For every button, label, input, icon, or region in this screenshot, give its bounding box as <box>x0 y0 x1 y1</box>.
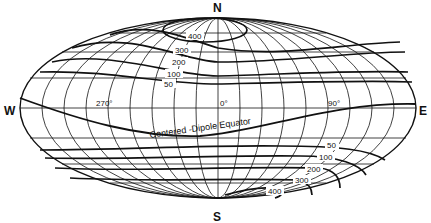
longitude-270-label: 270° <box>96 99 113 108</box>
svg-text:100: 100 <box>319 153 333 162</box>
east-label: E <box>419 104 427 118</box>
svg-text:300: 300 <box>295 176 309 185</box>
svg-text:300: 300 <box>175 46 189 55</box>
west-label: W <box>4 104 16 118</box>
svg-text:400: 400 <box>268 187 282 196</box>
svg-text:200: 200 <box>307 165 321 174</box>
svg-text:200: 200 <box>172 58 186 67</box>
north-contours <box>40 18 412 84</box>
longitude-90-label: 90° <box>328 99 340 108</box>
south-label: S <box>213 210 221 223</box>
svg-text:50: 50 <box>327 141 336 150</box>
map-diagram: N S W E 270° 0° 90° Centered -Dipole Equ… <box>0 0 431 223</box>
svg-text:400: 400 <box>188 32 202 41</box>
longitude-0-label: 0° <box>220 99 228 108</box>
svg-text:100: 100 <box>167 70 181 79</box>
north-label: N <box>213 1 222 15</box>
svg-text:50: 50 <box>164 80 173 89</box>
